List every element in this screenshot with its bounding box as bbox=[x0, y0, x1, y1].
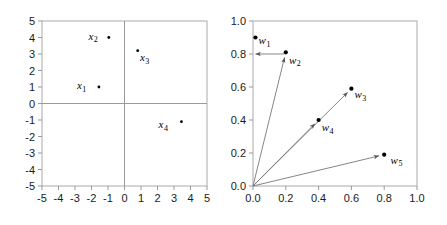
point-marker-x4 bbox=[180, 120, 183, 123]
left-x-tick-label: -3 bbox=[70, 192, 80, 204]
right-y-tick-label: 0.8 bbox=[231, 48, 246, 60]
right-x-tick-label: 0.2 bbox=[278, 192, 293, 204]
point-marker-w4 bbox=[317, 118, 321, 122]
two-panel-scatter-figure: -5-4-3-2-1012345-5-4-3-2-1012345x1x2x3x4… bbox=[0, 0, 447, 225]
right-x-tick-label: 1.0 bbox=[409, 192, 424, 204]
right-y-tick-label: 1.0 bbox=[231, 15, 246, 27]
left-y-tick-label: 4 bbox=[29, 32, 35, 44]
right-x-tick-label: 0.4 bbox=[311, 192, 326, 204]
left-y-tick-label: 5 bbox=[29, 15, 35, 27]
left-x-tick-label: -1 bbox=[103, 192, 113, 204]
left-x-tick-label: 3 bbox=[171, 192, 177, 204]
left-x-tick-label: 2 bbox=[154, 192, 160, 204]
left-x-tick-label: 0 bbox=[121, 192, 127, 204]
figure-container: -5-4-3-2-1012345-5-4-3-2-1012345x1x2x3x4… bbox=[0, 0, 447, 225]
right-y-tick-label: 0.2 bbox=[231, 147, 246, 159]
left-x-tick-label: 1 bbox=[138, 192, 144, 204]
left-x-tick-label: -2 bbox=[87, 192, 97, 204]
point-marker-x3 bbox=[136, 49, 139, 52]
left-y-tick-label: -4 bbox=[25, 164, 35, 176]
left-y-tick-label: 1 bbox=[29, 81, 35, 93]
left-y-tick-label: 0 bbox=[29, 98, 35, 110]
point-marker-w5 bbox=[382, 153, 386, 157]
point-marker-x1 bbox=[98, 86, 101, 89]
left-x-tick-label: 4 bbox=[187, 192, 193, 204]
point-marker-w1 bbox=[253, 35, 257, 39]
left-y-tick-label: -1 bbox=[25, 114, 35, 126]
right-y-tick-label: 0.4 bbox=[231, 114, 246, 126]
left-y-tick-label: 3 bbox=[29, 48, 35, 60]
left-y-tick-label: -3 bbox=[25, 147, 35, 159]
right-y-tick-label: 0.6 bbox=[231, 81, 246, 93]
left-x-tick-label: -5 bbox=[37, 192, 47, 204]
left-x-tick-label: -4 bbox=[54, 192, 64, 204]
right-x-tick-label: 0.6 bbox=[344, 192, 359, 204]
left-y-tick-label: 2 bbox=[29, 65, 35, 77]
right-x-tick-label: 0.8 bbox=[377, 192, 392, 204]
point-marker-w3 bbox=[349, 87, 353, 91]
left-x-tick-label: 5 bbox=[204, 192, 210, 204]
point-marker-w2 bbox=[284, 50, 288, 54]
point-marker-x2 bbox=[107, 36, 110, 39]
right-y-tick-label: 0.0 bbox=[231, 180, 246, 192]
left-y-tick-label: -5 bbox=[25, 180, 35, 192]
left-y-tick-label: -2 bbox=[25, 131, 35, 143]
right-x-tick-label: 0.0 bbox=[245, 192, 260, 204]
